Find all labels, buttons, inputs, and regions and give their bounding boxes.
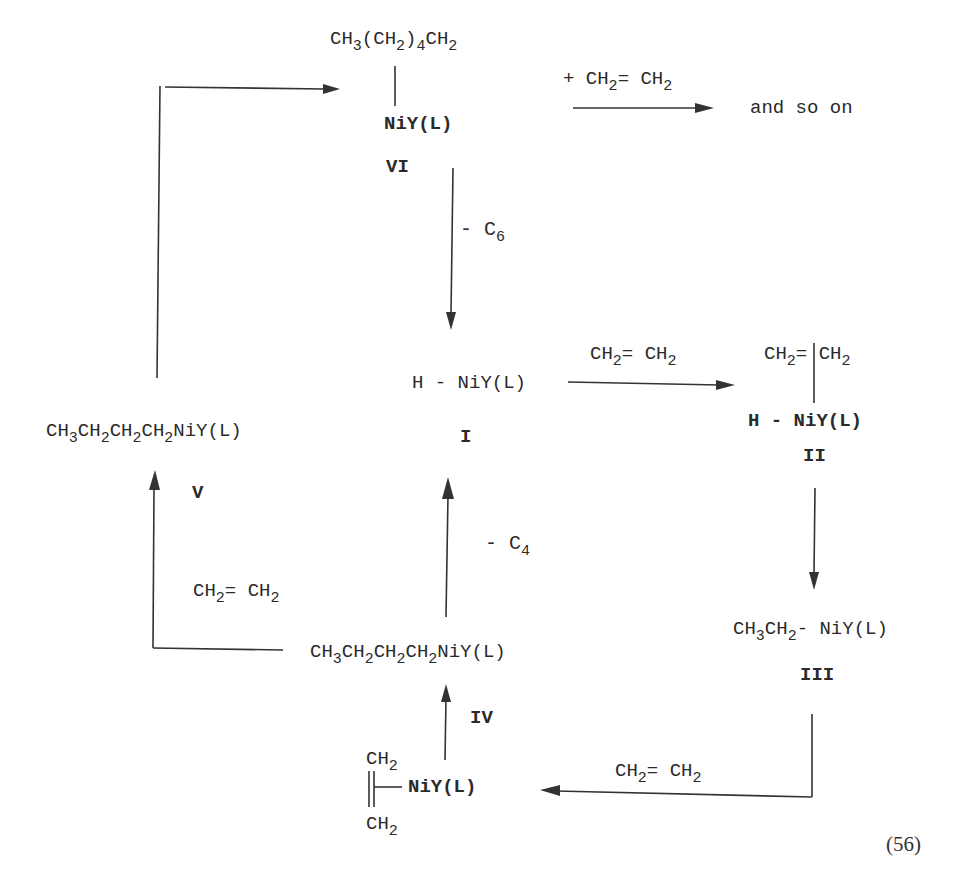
species-i-label: I	[460, 428, 471, 447]
species-i-formula: H - NiY(L)	[412, 374, 526, 393]
species-ii-olefin: CH2= CH2	[764, 345, 850, 364]
arrow-vi-more-label: + CH2= CH2	[563, 70, 672, 89]
species-iii-formula: CH3CH2- NiY(L)	[733, 620, 888, 639]
species-vi-alkyl: CH3(CH2)4CH2	[330, 30, 457, 49]
arrow-ii-to-iii	[809, 488, 819, 590]
arrow-iii-to-ivp	[540, 714, 812, 797]
arrow-i-to-ii	[568, 380, 735, 390]
arrow-iv-to-i	[442, 477, 454, 617]
pi-complex-top-ch2: CH2	[366, 750, 398, 769]
pi-complex-bottom-ch2: CH2	[366, 815, 398, 834]
arrow-ivp-to-iv	[441, 684, 451, 760]
arrow-i-ii-label: CH2= CH2	[590, 345, 676, 364]
species-iv-label: IV	[470, 709, 493, 728]
pi-bond	[369, 771, 402, 807]
arrow-vi-to-i	[446, 168, 456, 330]
arrow-iv-to-v	[149, 470, 283, 650]
species-iii-label: III	[800, 666, 834, 685]
pi-complex-metal: NiY(L)	[408, 778, 476, 797]
arrows-layer	[0, 0, 978, 895]
reaction-scheme: CH3(CH2)4CH2 NiY(L) VI + CH2= CH2 and so…	[0, 0, 978, 895]
and-so-on-text: and so on	[750, 99, 853, 118]
species-iv-formula: CH3CH2CH2CH2NiY(L)	[310, 643, 506, 662]
arrow-vi-to-more	[573, 103, 714, 113]
arrow-iv-v-label: CH2= CH2	[193, 582, 279, 601]
species-v-label: V	[192, 484, 203, 503]
arrow-iv-i-label: - C4	[485, 534, 530, 554]
species-vi-label: VI	[386, 158, 409, 177]
species-v-formula: CH3CH2CH2CH2NiY(L)	[46, 422, 242, 441]
species-ii-label: II	[803, 447, 826, 466]
arrow-iii-ivp-label: CH2= CH2	[615, 762, 701, 781]
species-vi-metal: NiY(L)	[384, 115, 452, 134]
arrow-vi-i-label: - C6	[460, 220, 505, 240]
arrow-v-to-vi	[157, 84, 340, 378]
species-ii-metal: H - NiY(L)	[748, 412, 862, 431]
equation-number: (56)	[886, 832, 921, 857]
